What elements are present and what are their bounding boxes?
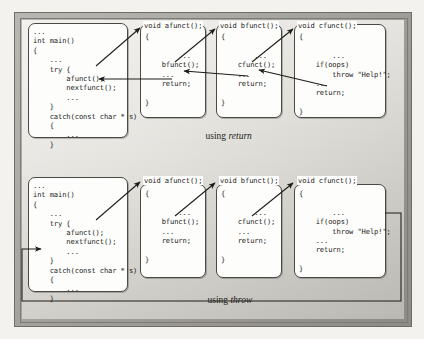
cfunct-code-throw: { ... if(oops) throw "Help!"; ... return… [295, 186, 395, 277]
exception-flow-figure: ... int main() { ... try { afunct(); nex… [0, 0, 424, 339]
afunct-code-return: { ... bfunct(); ... return; } [141, 29, 203, 110]
caption-prefix-return: using [206, 131, 229, 141]
afunct-header-throw: void afunct(); [143, 176, 203, 185]
caption-prefix-throw: using [208, 295, 231, 305]
afunct-code-throw: { ... bfunct(); ... return; } [141, 186, 203, 267]
bfunct-code-throw: { ... cfunct(); ... return; } [217, 186, 279, 267]
bfunct-header-throw: void bfunct(); [219, 176, 279, 185]
main-function-box-throw: ... int main() { ... try { afunct(); nex… [28, 177, 128, 292]
cfunct-code-return: { ... if(oops) throw "Help!"; ... return… [295, 29, 395, 120]
caption-using-return: using return [196, 121, 252, 151]
main-code-return: ... int main() { ... try { afunct(); nex… [29, 24, 141, 152]
caption-keyword-throw: throw [230, 295, 252, 305]
caption-keyword-return: return [228, 131, 251, 141]
bfunct-code-return: { ... cfunct(); ... return; } [217, 29, 279, 110]
main-code-throw: ... int main() { ... try { afunct(); nex… [29, 178, 141, 306]
caption-using-throw: using throw [198, 285, 252, 315]
cfunct-header-throw: void cfunct(); [297, 176, 357, 185]
main-function-box-return: ... int main() { ... try { afunct(); nex… [28, 23, 128, 138]
